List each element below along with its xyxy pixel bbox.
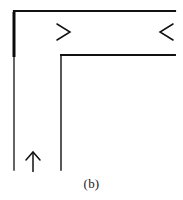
duct-diagram-canvas [0,0,183,200]
figure-caption: (b) [0,176,183,192]
diagram-background [0,0,183,200]
figure-container: (b) [0,0,183,200]
